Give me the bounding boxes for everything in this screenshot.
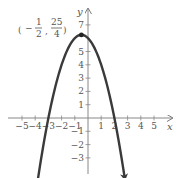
svg-text:4: 4 xyxy=(78,60,84,70)
svg-text:4: 4 xyxy=(54,29,60,39)
svg-text:4: 4 xyxy=(138,121,144,131)
svg-text:3: 3 xyxy=(78,73,84,83)
svg-text:5: 5 xyxy=(78,47,84,57)
svg-text:5: 5 xyxy=(151,121,157,131)
svg-text:1: 1 xyxy=(98,121,104,131)
svg-text:7: 7 xyxy=(78,20,84,30)
svg-text:(: ( xyxy=(18,25,22,35)
svg-text:25: 25 xyxy=(51,17,63,27)
svg-text:−4: −4 xyxy=(29,121,43,131)
svg-text:1: 1 xyxy=(36,17,42,27)
svg-text:−2: −2 xyxy=(55,121,68,131)
svg-text:−3: −3 xyxy=(71,153,85,163)
svg-text:−1: −1 xyxy=(71,126,84,136)
x-axis-label: x xyxy=(167,121,173,132)
y-axis-label: y xyxy=(76,6,83,17)
vertex-point xyxy=(79,32,84,37)
svg-text:): ) xyxy=(63,25,67,35)
svg-text:−: − xyxy=(25,23,33,33)
svg-text:2: 2 xyxy=(36,29,42,39)
svg-text:−5: −5 xyxy=(15,121,29,131)
svg-text:1: 1 xyxy=(78,100,84,110)
svg-text:3: 3 xyxy=(125,121,131,131)
svg-text:−2: −2 xyxy=(71,140,84,150)
svg-text:2: 2 xyxy=(78,86,84,96)
svg-text:,: , xyxy=(45,26,48,36)
vertex-label: ( − 1 2 , 25 4 ) xyxy=(18,17,67,39)
parabola-graph: −5−4−3−2−112345 −3−2−1123457 x y ( − 1 2… xyxy=(0,0,179,178)
